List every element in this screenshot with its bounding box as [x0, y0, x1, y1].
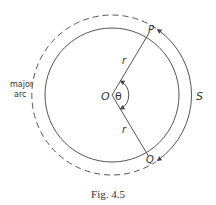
label-s: S [196, 90, 203, 103]
minor-arc-s [158, 30, 192, 161]
radius-oq [112, 95, 149, 157]
label-major-arc-line1: major [10, 80, 34, 89]
major-arc-dashed [32, 15, 156, 175]
circle-arc-diagram: O θ P Q r r S major arc Fig. 4.5 [0, 0, 216, 205]
label-p: P [148, 24, 155, 35]
label-center-o: O [101, 90, 110, 103]
figure-caption: Fig. 4.5 [91, 188, 125, 200]
label-q: Q [146, 154, 154, 165]
label-r-lower: r [122, 124, 127, 135]
label-r-upper: r [122, 55, 127, 66]
label-major-arc-line2: arc [14, 90, 26, 99]
label-theta: θ [115, 90, 122, 103]
radius-op [112, 33, 149, 95]
angle-arc [121, 81, 129, 109]
